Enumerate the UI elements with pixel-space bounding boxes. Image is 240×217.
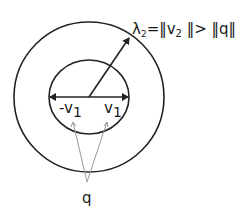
v2-radius-arrow bbox=[89, 38, 129, 97]
q-label: q bbox=[82, 189, 92, 207]
eigen-diagram: λ2=‖v2 ‖> ‖q‖ -v1 v1 q bbox=[0, 0, 240, 217]
diagram-svg: λ2=‖v2 ‖> ‖q‖ -v1 v1 q bbox=[0, 0, 240, 217]
v1-label: v1 bbox=[104, 99, 122, 120]
q-pointer-right bbox=[87, 122, 107, 182]
q-pointer-left bbox=[73, 122, 87, 182]
neg-v1-label: -v1 bbox=[59, 99, 82, 120]
lambda2-label: λ2=‖v2 ‖> ‖q‖ bbox=[132, 20, 236, 39]
